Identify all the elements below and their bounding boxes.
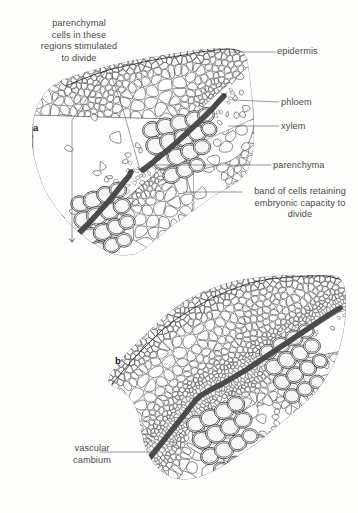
label-parenchymal-cells: parenchymal cells in these regions stimu… bbox=[16, 18, 142, 64]
label-vascular-cambium: vascular cambium bbox=[62, 443, 122, 466]
panel-letter-b: b bbox=[115, 355, 121, 366]
panel-a-tissue bbox=[26, 42, 259, 261]
panel-b-tissue bbox=[102, 269, 352, 485]
label-xylem: xylem bbox=[281, 121, 306, 133]
label-band-of-cells: band of cells retaining embryonic capaci… bbox=[244, 186, 356, 221]
panel-letter-a: a bbox=[33, 122, 38, 133]
label-epidermis: epidermis bbox=[277, 46, 318, 58]
label-parenchyma: parenchyma bbox=[273, 160, 325, 172]
figure-page: parenchymal cells in these regions stimu… bbox=[0, 0, 358, 513]
botanical-illustration bbox=[0, 0, 358, 513]
label-phloem: phloem bbox=[281, 97, 312, 109]
